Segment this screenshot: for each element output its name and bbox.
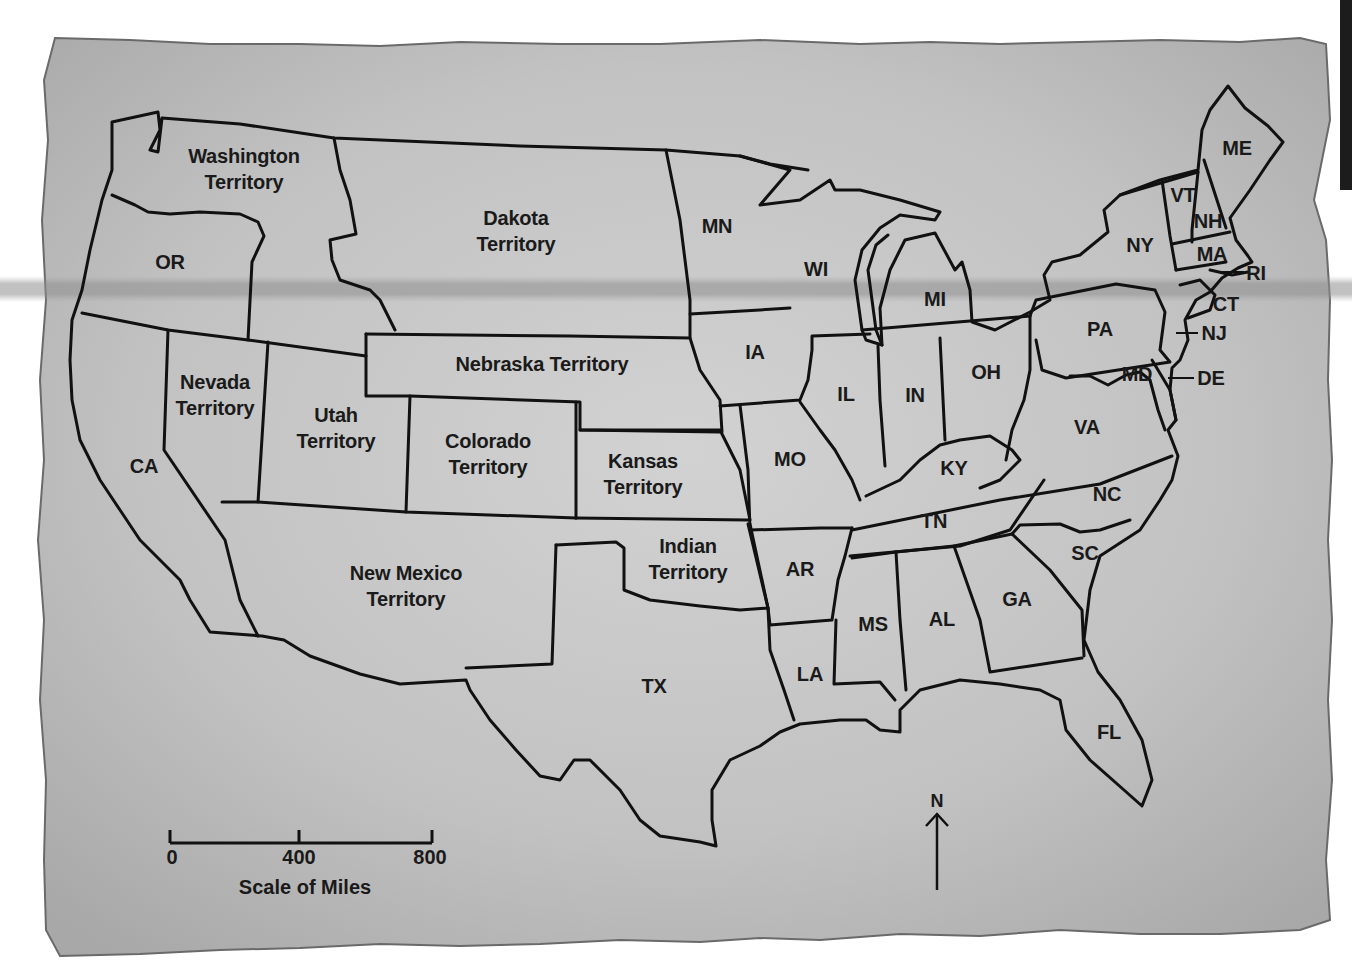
- region-label-delaware: DE: [1197, 365, 1224, 391]
- scale-tick-400: 400: [282, 846, 315, 869]
- region-label-wisconsin: WI: [804, 256, 828, 282]
- scale-caption: Scale of Miles: [239, 876, 371, 899]
- region-label-washington: WashingtonTerritory: [188, 143, 300, 195]
- region-label-utah: UtahTerritory: [297, 402, 376, 454]
- region-label-new-mexico: New MexicoTerritory: [350, 560, 462, 612]
- region-label-indian: IndianTerritory: [649, 533, 728, 585]
- region-label-mississippi: MS: [858, 611, 888, 637]
- region-label-alabama: AL: [929, 606, 955, 632]
- region-label-arkansas: AR: [786, 556, 815, 582]
- region-label-nevada: NevadaTerritory: [176, 369, 255, 421]
- region-label-north-carolina: NC: [1093, 481, 1122, 507]
- scan-edge-tab: [1340, 0, 1352, 190]
- region-label-dakota: DakotaTerritory: [477, 205, 556, 257]
- region-label-new-jersey: NJ: [1201, 320, 1226, 346]
- region-label-illinois: IL: [837, 381, 854, 407]
- region-label-nebraska: Nebraska Territory: [456, 351, 629, 377]
- region-label-georgia: GA: [1002, 586, 1032, 612]
- region-label-kansas: KansasTerritory: [604, 448, 683, 500]
- region-label-colorado: ColoradoTerritory: [445, 428, 531, 480]
- region-label-new-york: NY: [1126, 232, 1153, 258]
- region-label-pennsylvania: PA: [1087, 316, 1113, 342]
- north-label: N: [931, 791, 944, 812]
- region-label-south-carolina: SC: [1071, 540, 1098, 566]
- region-label-michigan: MI: [924, 286, 946, 312]
- region-label-ohio: OH: [971, 359, 1001, 385]
- region-label-louisiana: LA: [797, 661, 823, 687]
- region-label-new-hampshire: NH: [1194, 208, 1223, 234]
- region-label-florida: FL: [1097, 719, 1121, 745]
- region-label-california: CA: [130, 453, 159, 479]
- region-label-oregon: OR: [155, 249, 185, 275]
- region-label-maryland: MD: [1122, 361, 1153, 387]
- map-page: WashingtonTerritoryORCANevadaTerritoryUt…: [0, 0, 1352, 972]
- region-label-maine: ME: [1222, 135, 1252, 161]
- region-label-kentucky: KY: [940, 455, 967, 481]
- region-label-massachusetts: MA: [1197, 241, 1228, 267]
- region-label-virginia: VA: [1074, 414, 1100, 440]
- region-label-iowa: IA: [745, 339, 765, 365]
- region-label-minnesota: MN: [702, 213, 733, 239]
- region-label-tennessee: TN: [921, 508, 947, 534]
- region-label-connecticut: CT: [1213, 291, 1239, 317]
- scale-tick-0: 0: [166, 846, 177, 869]
- region-label-indiana: IN: [905, 382, 925, 408]
- region-label-rhode-island: RI: [1246, 260, 1266, 286]
- region-label-missouri: MO: [774, 446, 806, 472]
- region-label-vermont: VT: [1170, 182, 1195, 208]
- scale-tick-800: 800: [413, 846, 446, 869]
- region-label-texas: TX: [641, 673, 666, 699]
